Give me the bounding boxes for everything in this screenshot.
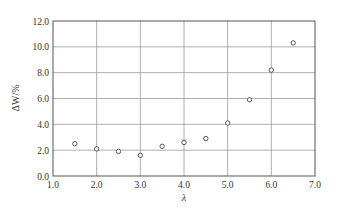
x-tick-label: 4.0 xyxy=(178,180,190,190)
data-point-marker xyxy=(94,147,98,151)
y-tick-label: 8.0 xyxy=(37,68,49,78)
y-tick-label: 2.0 xyxy=(37,146,49,156)
data-point-marker xyxy=(247,98,251,102)
y-tick-label: 0.0 xyxy=(37,172,49,182)
y-tick-label: 12.0 xyxy=(32,17,49,27)
y-tick-label: 10.0 xyxy=(32,42,49,52)
data-point-marker xyxy=(116,149,120,153)
x-axis-ticks: 1.02.03.04.05.06.07.0 xyxy=(47,180,321,190)
x-axis-label: λ xyxy=(181,192,187,203)
x-tick-label: 7.0 xyxy=(309,180,321,190)
scatter-chart: 1.02.03.04.05.06.07.0 0.02.04.06.08.010.… xyxy=(0,0,340,215)
x-tick-label: 5.0 xyxy=(222,180,234,190)
y-axis-label: ΔW/% xyxy=(10,85,21,112)
data-point-marker xyxy=(160,144,164,148)
x-tick-label: 1.0 xyxy=(47,180,59,190)
data-point-marker xyxy=(225,121,229,125)
data-point-marker xyxy=(204,136,208,140)
data-point-marker xyxy=(182,140,186,144)
data-point-marker xyxy=(138,153,142,157)
y-tick-label: 6.0 xyxy=(37,94,49,104)
x-tick-label: 2.0 xyxy=(91,180,103,190)
x-tick-label: 3.0 xyxy=(134,180,146,190)
x-tick-label: 6.0 xyxy=(265,180,277,190)
grid-lines xyxy=(53,21,315,176)
data-point-marker xyxy=(269,68,273,72)
data-point-marker xyxy=(291,41,295,45)
y-tick-label: 4.0 xyxy=(37,120,49,130)
y-axis-ticks: 0.02.04.06.08.010.012.0 xyxy=(32,17,49,182)
data-point-marker xyxy=(73,142,77,146)
